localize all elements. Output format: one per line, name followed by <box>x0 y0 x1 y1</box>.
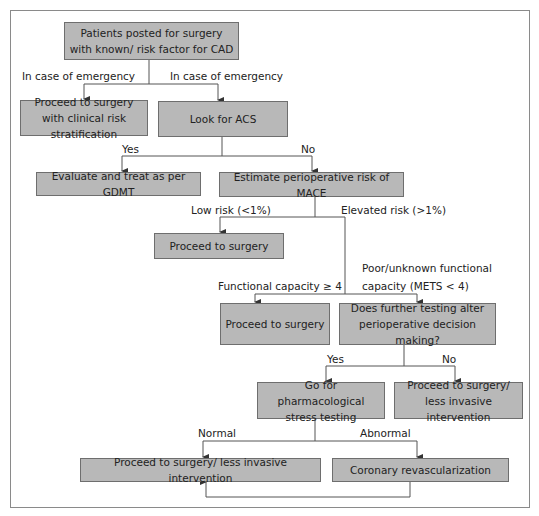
label-testing-no: No <box>442 353 456 366</box>
node-coronary-revasc: Coronary revascularization <box>332 458 509 482</box>
node-proceed-functional: Proceed to surgery <box>220 303 330 345</box>
label-low-risk: Low risk (<1%) <box>191 204 271 217</box>
node-further-testing: Does further testing alter perioperative… <box>339 303 496 345</box>
label-acs-yes: Yes <box>122 143 139 156</box>
label-testing-yes: Yes <box>327 353 344 366</box>
node-start: Patients posted for surgery with known/ … <box>64 22 239 60</box>
node-pharm-stress: Go for pharmacological stress testing <box>257 382 385 419</box>
label-emergency-left: In case of emergency <box>22 70 135 83</box>
node-proceed-less-invasive-normal: Proceed to surgery/ less invasive interv… <box>80 458 321 482</box>
node-evaluate-gdmt: Evaluate and treat as per GDMT <box>36 172 201 196</box>
node-emergency-proceed: Proceed to surgery with clinical risk st… <box>20 100 148 136</box>
node-proceed-less-invasive-no: Proceed to surgery/ less invasive interv… <box>394 382 523 419</box>
edge-functional-good <box>255 294 345 302</box>
label-stress-abnormal: Abnormal <box>360 427 411 440</box>
node-estimate-mace: Estimate perioperative risk of MACE <box>219 172 404 197</box>
node-proceed-low: Proceed to surgery <box>154 233 284 259</box>
label-emergency-right: In case of emergency <box>170 70 283 83</box>
edge-stress-abnormal <box>315 441 417 457</box>
label-functional-good: Functional capacity ≥ 4 <box>218 280 342 293</box>
label-functional-poor-2: capacity (METS < 4) <box>362 280 469 293</box>
node-look-acs: Look for ACS <box>158 101 288 137</box>
label-elevated-risk: Elevated risk (>1%) <box>341 204 446 217</box>
edge-low-risk <box>220 217 315 232</box>
edge-start-to-look-acs <box>149 84 218 100</box>
label-functional-poor-1: Poor/unknown functional <box>362 262 492 275</box>
label-acs-no: No <box>301 143 315 156</box>
label-stress-normal: Normal <box>198 427 236 440</box>
